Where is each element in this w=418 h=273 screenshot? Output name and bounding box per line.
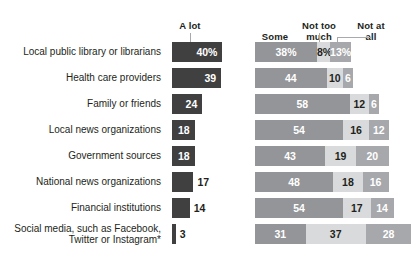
segment-not-at-all: 20 xyxy=(356,146,389,166)
a-lot-value-label: 14 xyxy=(194,198,206,218)
a-lot-bar-track: 39 xyxy=(172,68,252,88)
segment-not-too-much: 16 xyxy=(343,120,369,140)
a-lot-value-label: 24 xyxy=(172,94,197,114)
category-label: Family or friends xyxy=(0,91,166,117)
stacked-bar: 481816 xyxy=(255,172,389,192)
segment-some: 44 xyxy=(255,68,327,88)
a-lot-value-label: 3 xyxy=(180,224,186,244)
chart-row: National news organizations17481816 xyxy=(0,169,418,195)
segment-not-at-all: 12 xyxy=(369,120,389,140)
stacked-bar: 44106 xyxy=(255,68,353,88)
a-lot-bar-track: 18 xyxy=(172,146,252,166)
segment-some: 54 xyxy=(255,120,343,140)
category-label: Local public library or librarians xyxy=(0,39,166,65)
segment-not-too-much: 19 xyxy=(325,146,356,166)
segment-some: 54 xyxy=(255,198,343,218)
segment-not-at-all: 13% xyxy=(330,42,351,62)
chart-row: Health care providers3944106 xyxy=(0,65,418,91)
stacked-bar: 58126 xyxy=(255,94,379,114)
segment-not-at-all: 14 xyxy=(371,198,394,218)
category-label: National news organizations xyxy=(0,169,166,195)
a-lot-value-label: 18 xyxy=(172,120,190,140)
a-lot-value-label: 17 xyxy=(197,172,209,192)
chart-row: Local public library or librarians40%38%… xyxy=(0,39,418,65)
category-label: Local news organizations xyxy=(0,117,166,143)
segment-some: 31 xyxy=(255,224,306,244)
segment-some: 48 xyxy=(255,172,333,192)
segment-not-too-much: 17 xyxy=(343,198,371,218)
stacked-bar: 313728 xyxy=(255,224,411,244)
segment-some: 43 xyxy=(255,146,325,166)
chart-row: Social media, such as Facebook, Twitter … xyxy=(0,221,418,247)
a-lot-bar-track: 18 xyxy=(172,120,252,140)
segment-not-at-all: 6 xyxy=(343,68,353,88)
segment-some: 58 xyxy=(255,94,350,114)
chart-row: Local news organizations18541612 xyxy=(0,117,418,143)
a-lot-bar-track: 17 xyxy=(172,172,252,192)
chart-row: Financial institutions14541714 xyxy=(0,195,418,221)
leader-elbow-not-at-all-horizontal xyxy=(337,37,372,38)
category-label: Health care providers xyxy=(0,65,166,91)
a-lot-value-label: 39 xyxy=(172,68,216,88)
chart-container: A lot Some Not too much Not at all Local… xyxy=(0,0,418,273)
a-lot-value-label: 40% xyxy=(172,42,217,62)
category-label: Government sources xyxy=(0,143,166,169)
a-lot-bar-track: 24 xyxy=(172,94,252,114)
a-lot-bar-track: 14 xyxy=(172,198,252,218)
segment-not-at-all: 16 xyxy=(363,172,389,192)
segment-not-too-much: 10 xyxy=(327,68,343,88)
stacked-bar: 431920 xyxy=(255,146,389,166)
segment-not-at-all: 6 xyxy=(369,94,379,114)
category-label: Financial institutions xyxy=(0,195,166,221)
a-lot-bar-track: 40% xyxy=(172,42,252,62)
segment-not-too-much: 8% xyxy=(317,42,330,62)
stacked-bar: 541714 xyxy=(255,198,394,218)
a-lot-bar-track: 3 xyxy=(172,224,252,244)
chart-row: Family or friends2458126 xyxy=(0,91,418,117)
stacked-bar: 38%8%13% xyxy=(255,42,351,62)
segment-not-too-much: 12 xyxy=(350,94,370,114)
a-lot-bar xyxy=(172,172,193,192)
a-lot-value-label: 18 xyxy=(172,146,190,166)
column-header-a-lot: A lot xyxy=(160,20,220,31)
segment-not-at-all: 28 xyxy=(366,224,412,244)
a-lot-bar xyxy=(172,224,176,244)
segment-not-too-much: 37 xyxy=(306,224,366,244)
a-lot-bar xyxy=(172,198,190,218)
category-label: Social media, such as Facebook, Twitter … xyxy=(0,221,166,247)
segment-some: 38% xyxy=(255,42,317,62)
segment-not-too-much: 18 xyxy=(333,172,362,192)
stacked-bar: 541612 xyxy=(255,120,389,140)
chart-row: Government sources18431920 xyxy=(0,143,418,169)
